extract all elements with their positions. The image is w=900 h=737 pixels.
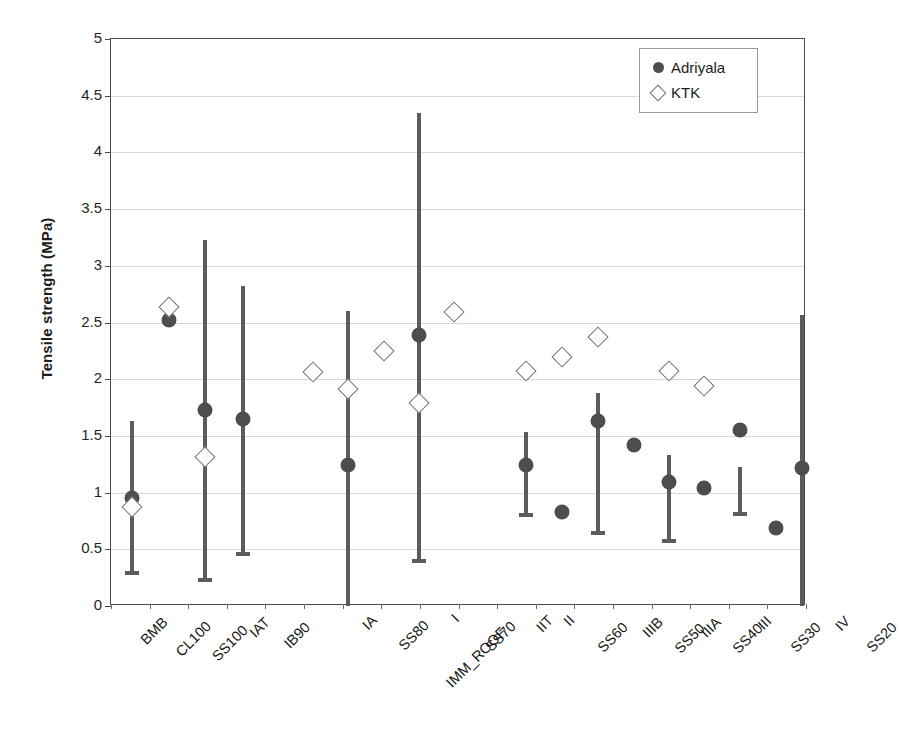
filled-circle-icon xyxy=(648,62,668,73)
error-bar xyxy=(667,455,671,541)
x-tick-mark xyxy=(420,604,421,609)
y-tick-label: 2 xyxy=(42,369,102,386)
error-bar xyxy=(524,432,528,515)
data-point-adriyala xyxy=(236,411,251,426)
data-point-ktk xyxy=(443,302,464,323)
data-point-adriyala xyxy=(697,481,712,496)
data-point-adriyala xyxy=(412,327,427,342)
error-bar-cap xyxy=(519,513,533,517)
x-tick-mark xyxy=(265,604,266,609)
x-axis-label: CL100 xyxy=(173,618,215,660)
x-axis-label: IB90 xyxy=(281,619,313,651)
data-point-ktk xyxy=(337,379,358,400)
x-tick-mark xyxy=(613,604,614,609)
y-tick-label: 4.5 xyxy=(42,86,102,103)
x-tick-mark xyxy=(652,604,653,609)
y-tick-label: 4 xyxy=(42,142,102,159)
legend-item-adriyala: Adriyala xyxy=(648,55,749,80)
y-tick-mark xyxy=(105,493,111,494)
x-tick-mark xyxy=(729,604,730,609)
x-axis-label: SS20 xyxy=(863,619,899,655)
data-point-adriyala xyxy=(555,504,570,519)
x-axis-label: SS100 xyxy=(209,622,251,664)
gridline xyxy=(111,549,804,550)
x-tick-mark xyxy=(150,604,151,609)
x-axis-label: IIIB xyxy=(639,614,666,641)
data-point-ktk xyxy=(158,296,179,317)
error-bar-cap xyxy=(412,559,426,563)
x-axis-label: SS60 xyxy=(594,619,630,655)
x-tick-mark xyxy=(381,604,382,609)
y-tick-mark xyxy=(105,209,111,210)
error-bar-cap xyxy=(236,552,250,556)
y-tick-label: 5 xyxy=(42,29,102,46)
x-axis-label: I xyxy=(448,611,462,625)
plot-area xyxy=(110,38,805,605)
error-bar xyxy=(738,467,742,515)
data-point-ktk xyxy=(408,392,429,413)
data-point-adriyala xyxy=(591,414,606,429)
data-point-ktk xyxy=(587,327,608,348)
x-axis-label: SS80 xyxy=(395,617,431,653)
open-diamond-icon xyxy=(648,87,668,99)
y-tick-mark xyxy=(105,96,111,97)
x-tick-mark xyxy=(767,604,768,609)
error-bar-cap xyxy=(591,531,605,535)
gridline xyxy=(111,323,804,324)
x-tick-mark xyxy=(497,604,498,609)
error-bar-cap xyxy=(662,539,676,543)
data-point-adriyala xyxy=(198,402,213,417)
x-axis-label: IV xyxy=(832,613,853,634)
data-point-ktk xyxy=(373,340,394,361)
x-axis-label: IA xyxy=(359,612,380,633)
x-tick-mark xyxy=(459,604,460,609)
y-tick-mark xyxy=(105,323,111,324)
y-tick-label: 0.5 xyxy=(42,539,102,556)
x-tick-mark xyxy=(343,604,344,609)
chart-legend: Adriyala KTK xyxy=(639,48,758,113)
error-bar-cap xyxy=(198,578,212,582)
y-tick-label: 1 xyxy=(42,483,102,500)
data-point-adriyala xyxy=(519,458,534,473)
error-bar-cap xyxy=(125,571,139,575)
x-axis-label: SS30 xyxy=(787,619,823,655)
gridline xyxy=(111,436,804,437)
y-tick-mark xyxy=(105,152,111,153)
x-axis-label: SS70 xyxy=(482,618,518,654)
x-tick-mark xyxy=(111,604,112,609)
gridline xyxy=(111,266,804,267)
legend-label-adriyala: Adriyala xyxy=(668,59,725,76)
y-tick-label: 2.5 xyxy=(42,313,102,330)
legend-label-ktk: KTK xyxy=(668,84,700,101)
x-axis-label: IAT xyxy=(246,614,273,641)
gridline xyxy=(111,209,804,210)
y-tick-mark xyxy=(105,266,111,267)
y-tick-mark xyxy=(105,379,111,380)
legend-item-ktk: KTK xyxy=(648,80,749,105)
data-point-adriyala xyxy=(733,423,748,438)
data-point-adriyala xyxy=(795,460,810,475)
data-point-adriyala xyxy=(627,437,642,452)
error-bar-cap xyxy=(733,512,747,516)
x-axis-label: II xyxy=(560,612,577,629)
x-axis-label: BMB xyxy=(137,614,171,648)
x-axis-label: IIT xyxy=(533,612,556,635)
x-tick-mark xyxy=(690,604,691,609)
y-tick-mark xyxy=(105,436,111,437)
y-tick-label: 3.5 xyxy=(42,199,102,216)
data-point-adriyala xyxy=(662,475,677,490)
y-tick-label: 3 xyxy=(42,256,102,273)
y-tick-label: 1.5 xyxy=(42,426,102,443)
data-point-adriyala xyxy=(769,520,784,535)
x-tick-mark xyxy=(536,604,537,609)
y-tick-mark xyxy=(105,39,111,40)
data-point-ktk xyxy=(551,346,572,367)
data-point-ktk xyxy=(194,447,215,468)
gridline xyxy=(111,152,804,153)
x-tick-mark xyxy=(188,604,189,609)
x-tick-mark xyxy=(574,604,575,609)
y-tick-mark xyxy=(105,549,111,550)
data-point-adriyala xyxy=(341,458,356,473)
x-tick-mark xyxy=(806,604,807,609)
